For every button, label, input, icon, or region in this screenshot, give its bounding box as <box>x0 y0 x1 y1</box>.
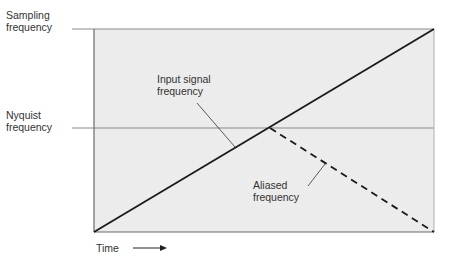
nyquist-frequency-label: Nyquist frequency <box>6 109 52 133</box>
time-axis-label: Time <box>96 242 119 254</box>
aliased-frequency-annotation: Aliased frequency <box>253 179 299 203</box>
aliasing-diagram <box>0 0 449 261</box>
sampling-frequency-label: Sampling frequency <box>6 9 52 33</box>
time-arrow-icon <box>160 245 167 251</box>
input-signal-annotation: Input signal frequency <box>157 73 211 97</box>
